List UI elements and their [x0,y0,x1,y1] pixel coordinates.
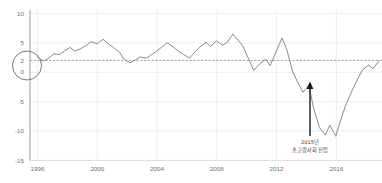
x-axis-tick-labels: 1996 2000 2004 2008 2012 2016 [31,165,344,172]
vertical-gridlines [38,10,337,160]
y-tick-label: 5 [21,39,25,46]
x-tick-label: 2004 [150,165,164,172]
annotation-line-2: 초고령사회 진입 [292,146,329,154]
y-tick-label: -10 [15,127,25,134]
y-tick-label: -15 [15,157,25,164]
y-tick-label: 10 [17,10,24,17]
y-tick-label-highlight: 2 [21,57,25,64]
y-tick-label: -5 [18,98,24,105]
data-series-line [37,34,379,136]
annotation-line-1: 2015년 [301,138,319,145]
line-chart: 10 5 2 0 -5 -10 -15 1996 2000 2004 2008 … [0,0,382,183]
y-tick-label: 0 [21,68,25,75]
horizontal-gridlines [30,13,382,160]
x-tick-label: 2016 [329,165,343,172]
x-tick-label: 1996 [31,165,45,172]
y-axis-tick-labels: 10 5 2 0 -5 -10 -15 [15,10,25,164]
annotation-arrow [307,82,314,137]
x-tick-label: 2008 [210,165,224,172]
chart-container: 10 5 2 0 -5 -10 -15 1996 2000 2004 2008 … [0,0,382,183]
x-tick-label: 2012 [270,165,284,172]
x-tick-label: 2000 [90,165,104,172]
